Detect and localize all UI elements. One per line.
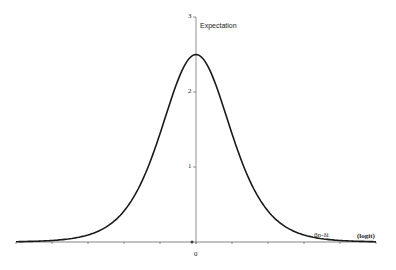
xtick-label-0: 0 xyxy=(194,250,198,258)
ytick-label-1: 1 xyxy=(188,162,192,170)
x-axis-title: (logit) xyxy=(357,232,375,240)
y-ticks xyxy=(193,17,196,167)
expectation-chart xyxy=(0,0,396,270)
y-axis-title: Expectation xyxy=(200,22,237,29)
origin-marker xyxy=(191,241,194,244)
ytick-label-3: 3 xyxy=(188,12,192,20)
annotation-beta-delta: βn-δi xyxy=(314,231,329,239)
ytick-label-2: 2 xyxy=(188,87,192,95)
